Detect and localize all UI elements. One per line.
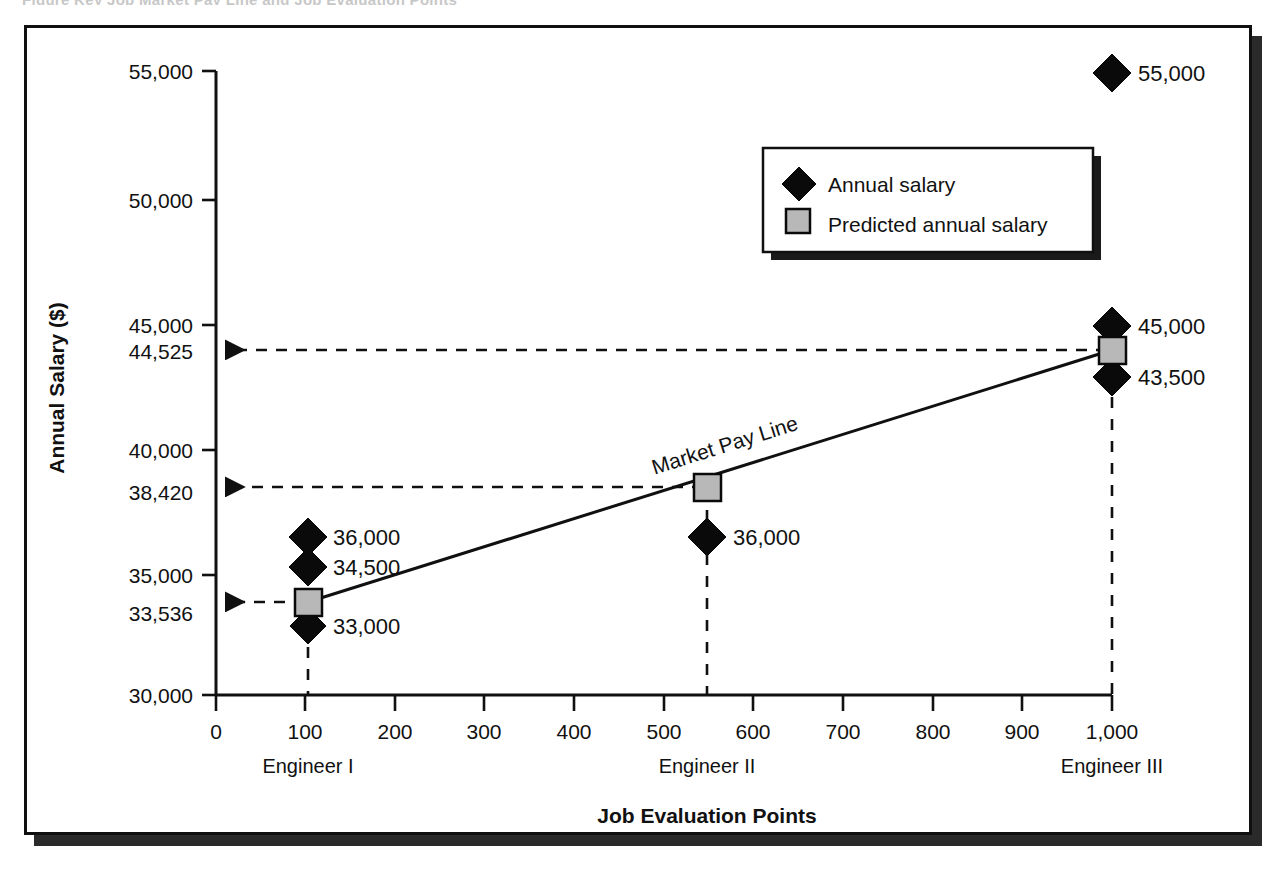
square-icon bbox=[786, 209, 810, 233]
group-label-engineer-2: Engineer II bbox=[659, 755, 756, 777]
x-tick-label: 0 bbox=[210, 720, 222, 743]
y-tick-labels: 55,000 50,000 45,000 44,525 40,000 38,42… bbox=[129, 60, 193, 707]
x-tick-label: 500 bbox=[646, 720, 681, 743]
square-marker bbox=[1099, 337, 1126, 364]
y-tick-label-annotated: 44,525 bbox=[129, 340, 193, 363]
x-tick-label: 1,000 bbox=[1086, 720, 1139, 743]
data-point-label: 36,000 bbox=[333, 525, 400, 550]
y-tick-label-annotated: 33,536 bbox=[129, 602, 193, 625]
x-tick-label: 400 bbox=[556, 720, 591, 743]
figure-frame: 55,000 50,000 45,000 44,525 40,000 38,42… bbox=[24, 25, 1252, 835]
data-point-label: 45,000 bbox=[1138, 314, 1205, 339]
y-tick-label: 50,000 bbox=[129, 189, 193, 212]
data-point-label: 34,500 bbox=[333, 555, 400, 580]
predicted-point[interactable] bbox=[295, 589, 322, 616]
data-point-label: 36,000 bbox=[733, 525, 800, 550]
y-tick-label: 40,000 bbox=[129, 439, 193, 462]
data-point-label: 55,000 bbox=[1138, 61, 1205, 86]
square-marker bbox=[694, 474, 721, 501]
x-tick-label: 100 bbox=[287, 720, 322, 743]
legend-label: Predicted annual salary bbox=[828, 213, 1048, 236]
data-point[interactable]: 36,000 bbox=[688, 518, 800, 556]
x-tick-labels: 0 100 200 300 400 500 600 700 800 900 1,… bbox=[210, 720, 1138, 743]
x-tick-label: 700 bbox=[825, 720, 860, 743]
data-point-label: 33,000 bbox=[333, 614, 400, 639]
x-tick-label: 800 bbox=[915, 720, 950, 743]
group-label-engineer-1: Engineer I bbox=[262, 755, 353, 777]
data-point[interactable]: 55,000 bbox=[1093, 54, 1205, 92]
diamond-marker bbox=[688, 518, 726, 556]
group-label-engineer-3: Engineer III bbox=[1061, 755, 1163, 777]
y-tick-marks bbox=[202, 71, 216, 695]
x-tick-label: 200 bbox=[377, 720, 412, 743]
data-point[interactable]: 34,500 bbox=[289, 548, 400, 586]
y-tick-label: 45,000 bbox=[129, 314, 193, 337]
x-tick-label: 300 bbox=[466, 720, 501, 743]
x-axis-title: Job Evaluation Points bbox=[597, 804, 816, 827]
y-tick-label: 35,000 bbox=[129, 564, 193, 587]
cut-off-caption: Figure Key Job Market Pay Line and Job E… bbox=[22, 0, 1122, 5]
y-axis-title: Annual Salary ($) bbox=[45, 302, 68, 474]
chart-svg: 55,000 50,000 45,000 44,525 40,000 38,42… bbox=[27, 28, 1255, 838]
legend-label: Annual salary bbox=[828, 173, 956, 196]
y-tick-label-annotated: 38,420 bbox=[129, 481, 193, 504]
diamond-marker bbox=[1093, 54, 1131, 92]
square-marker bbox=[295, 589, 322, 616]
x-tick-label: 600 bbox=[735, 720, 770, 743]
x-tick-marks bbox=[216, 695, 1112, 711]
chart-legend: Annual salary Predicted annual salary bbox=[763, 148, 1101, 260]
x-tick-label: 900 bbox=[1004, 720, 1039, 743]
y-tick-label: 30,000 bbox=[129, 684, 193, 707]
predicted-point[interactable] bbox=[694, 474, 721, 501]
chart-plot-area: 55,000 50,000 45,000 44,525 40,000 38,42… bbox=[27, 28, 1255, 838]
y-tick-label: 55,000 bbox=[129, 60, 193, 83]
data-point-label: 43,500 bbox=[1138, 365, 1205, 390]
x-group-labels: Engineer I Engineer II Engineer III bbox=[262, 755, 1163, 777]
predicted-point[interactable] bbox=[1099, 337, 1126, 364]
diamond-marker bbox=[289, 548, 327, 586]
market-pay-line-label: Market Pay Line bbox=[649, 411, 801, 478]
